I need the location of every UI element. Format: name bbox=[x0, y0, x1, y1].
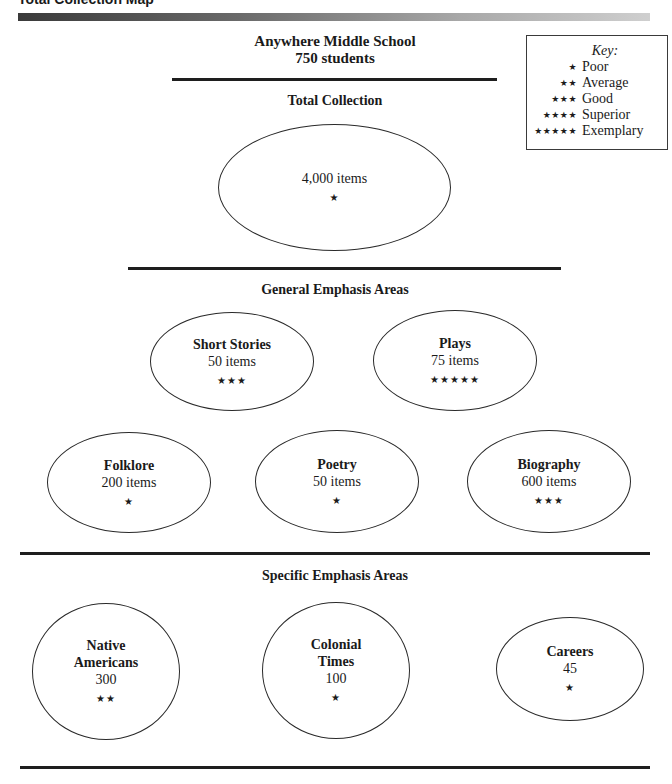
star-icon: ★★ bbox=[527, 75, 582, 91]
bottom-divider bbox=[20, 766, 650, 769]
key-row-poor: ★ Poor bbox=[527, 59, 667, 75]
divider bbox=[172, 78, 497, 81]
specific-emphasis-heading: Specific Emphasis Areas bbox=[170, 568, 500, 584]
circle-native-americans: Native Americans 300 ★★ bbox=[32, 603, 180, 740]
key-row-average: ★★ Average bbox=[527, 75, 667, 91]
total-count: 4,000 items bbox=[302, 170, 367, 187]
key-row-good: ★★★ Good bbox=[527, 91, 667, 107]
divider bbox=[20, 552, 650, 555]
oval-plays: Plays 75 items ★★★★★ bbox=[373, 310, 537, 411]
star-rating-icon: ★ bbox=[124, 495, 134, 509]
star-rating-icon: ★★ bbox=[96, 692, 116, 706]
star-rating-icon: ★ bbox=[330, 191, 340, 205]
star-rating-icon: ★★★ bbox=[217, 374, 247, 388]
title-gradient-bar bbox=[18, 13, 650, 21]
rating-key: Key: ★ Poor ★★ Average ★★★ Good ★★★★ Sup… bbox=[526, 35, 668, 150]
oval-folklore: Folklore 200 items ★ bbox=[47, 432, 211, 533]
star-icon: ★ bbox=[527, 59, 582, 75]
total-collection-heading: Total Collection bbox=[170, 93, 500, 109]
key-row-superior: ★★★★ Superior bbox=[527, 107, 667, 123]
school-header: Anywhere Middle School 750 students bbox=[170, 33, 500, 67]
page-title: Total Collection Map bbox=[18, 0, 154, 7]
total-collection-oval: 4,000 items ★ bbox=[218, 124, 451, 251]
circle-colonial-times: Colonial Times 100 ★ bbox=[262, 602, 410, 739]
oval-short-stories: Short Stories 50 items ★★★ bbox=[150, 312, 314, 411]
divider bbox=[128, 267, 561, 270]
key-row-exemplary: ★★★★★ Exemplary bbox=[527, 123, 667, 139]
star-icon: ★★★ bbox=[527, 91, 582, 107]
star-rating-icon: ★ bbox=[565, 681, 575, 695]
star-icon: ★★★★★ bbox=[527, 123, 582, 139]
star-rating-icon: ★★★★★ bbox=[430, 373, 480, 387]
star-rating-icon: ★★★ bbox=[534, 494, 564, 508]
enrollment: 750 students bbox=[170, 50, 500, 67]
key-title: Key: bbox=[527, 42, 667, 59]
oval-careers: Careers 45 ★ bbox=[496, 617, 644, 721]
star-icon: ★★★★ bbox=[527, 107, 582, 123]
general-emphasis-heading: General Emphasis Areas bbox=[170, 282, 500, 298]
star-rating-icon: ★ bbox=[332, 494, 342, 508]
school-name: Anywhere Middle School bbox=[170, 33, 500, 50]
oval-poetry: Poetry 50 items ★ bbox=[255, 430, 419, 533]
oval-biography: Biography 600 items ★★★ bbox=[467, 430, 631, 533]
star-rating-icon: ★ bbox=[331, 691, 341, 705]
